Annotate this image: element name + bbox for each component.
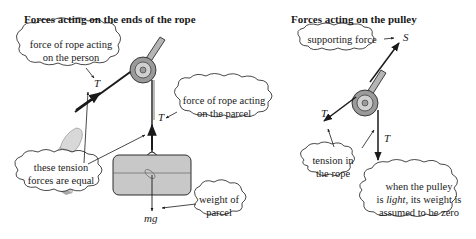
right-panel-title: Forces acting on the pulley xyxy=(291,13,417,25)
symbol-tension-person: T xyxy=(94,77,100,89)
label-parcel-force: force of rope acting on the parcel xyxy=(180,94,268,120)
label-light-pulley: when the pulley is light, its weight is … xyxy=(366,180,472,219)
symbol-tension-parcel: T xyxy=(158,111,164,123)
pulley-right xyxy=(352,90,378,116)
symbol-tension-down: T xyxy=(384,132,390,144)
symbol-support: S xyxy=(403,31,409,43)
pointer-support xyxy=(384,38,394,39)
pointer-weight xyxy=(162,204,196,208)
symbol-weight: mg xyxy=(144,212,157,224)
label-tension: tension in the rope xyxy=(300,154,366,180)
label-person-force: force of rope acting on the person xyxy=(22,38,120,64)
symbol-tension-left: T xyxy=(321,107,327,119)
label-support: supporting force xyxy=(300,33,384,46)
label-weight: weight of parcel xyxy=(196,193,242,219)
pointer-parcel xyxy=(166,112,177,118)
label-equal-tension: these tension forces are equal xyxy=(14,161,108,187)
pulley-left xyxy=(130,57,156,83)
left-panel-title: Forces acting on the ends of the rope xyxy=(24,13,196,25)
pointer-person xyxy=(86,68,94,78)
support-arrow xyxy=(370,43,399,82)
pointer-tension-2 xyxy=(362,130,374,148)
tension-arrow-left xyxy=(324,97,356,121)
